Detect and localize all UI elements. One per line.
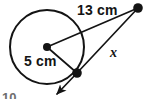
unknown-side-label: x	[110, 46, 117, 60]
geometry-canvas	[0, 0, 146, 99]
tangent-point	[72, 68, 82, 78]
radius-length-label: 5 cm	[24, 54, 57, 68]
chord-length-label: 13 cm	[77, 3, 118, 17]
external-point	[133, 3, 143, 13]
circle-center-point	[43, 43, 51, 51]
caption-label: 10	[2, 91, 16, 99]
geometry-figure: 13 cm 5 cm x 10	[0, 0, 146, 99]
